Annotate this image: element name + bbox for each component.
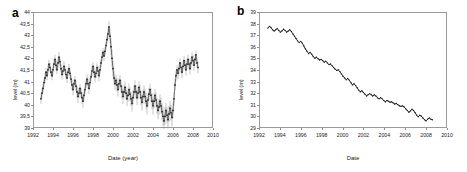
panel-a-y-tick: 41,5 (7, 67, 30, 73)
panel-b-x-tick: 1996 (295, 132, 307, 138)
panel-a-y-tick: 39 (7, 125, 30, 131)
panel-b-x-tick: 2000 (337, 132, 349, 138)
panel-b-y-tick: 32 (233, 90, 256, 96)
panel-a-x-tickmark (213, 128, 214, 130)
panel-a-y-tick: 42,5 (7, 44, 30, 50)
panel-a-x-tickmark (73, 128, 74, 130)
panel-b-y-tickmark (257, 58, 259, 59)
panel-b-y-tickmark (257, 12, 259, 13)
panel-a-y-tickmark (31, 105, 33, 106)
panel-a-x-axis-label: Date (year) (108, 155, 138, 161)
panel-b-x-tickmark (280, 128, 281, 130)
panel-b-y-tickmark (257, 105, 259, 106)
panel-a-y-tick: 40,5 (7, 90, 30, 96)
panel-b-x-tick: 2002 (358, 132, 370, 138)
panel-a-x-tickmark (93, 128, 94, 130)
panel-a-y-tickmark (31, 82, 33, 83)
panel-a-x-tick: 2000 (107, 132, 119, 138)
panel-a-x-tick: 2004 (147, 132, 159, 138)
panel-b-x-tick: 1998 (316, 132, 328, 138)
panel-a-data-series (34, 13, 214, 129)
panel-b-y-tickmark (257, 47, 259, 48)
panel-b-y-tickmark (257, 24, 259, 25)
panel-b-x-tick: 1994 (274, 132, 286, 138)
panel-a-x-tick: 1994 (47, 132, 59, 138)
panel-a-y-tick: 39,5 (7, 113, 30, 119)
panel-b-y-tick: 35 (233, 55, 256, 61)
panel-a-x-tickmark (173, 128, 174, 130)
panel-a-y-tick: 41 (7, 79, 30, 85)
panel-a-x-tick: 2008 (187, 132, 199, 138)
panel-a-x-tickmark (113, 128, 114, 130)
panel-b-x-tickmark (384, 128, 385, 130)
panel-b-x-tick: 2006 (399, 132, 411, 138)
panel-a-x-tickmark (33, 128, 34, 130)
panel-a-y-tick: 43 (7, 32, 30, 38)
panel-b-x-tickmark (259, 128, 260, 130)
panel-a-x-tickmark (193, 128, 194, 130)
panel-a-y-tick: 40 (7, 102, 30, 108)
panel-a-x-tickmark (53, 128, 54, 130)
panel-b-y-tick: 39 (233, 9, 256, 15)
panel-a-y-tickmark (31, 47, 33, 48)
panel-b-x-tickmark (322, 128, 323, 130)
panel-a-y-tickmark (31, 116, 33, 117)
panel-a-y-tick: 43,5 (7, 21, 30, 27)
panel-a-y-tick: 42 (7, 55, 30, 61)
panel-a-x-tick: 1992 (27, 132, 39, 138)
panel-a-y-tick: 44 (7, 9, 30, 15)
panel-b-y-tickmark (257, 82, 259, 83)
panel-a-x-tick: 2010 (207, 132, 219, 138)
panel-b-x-axis-label: Date (347, 155, 360, 161)
panel-a-plot-area (33, 12, 213, 128)
panel-b-data-series (260, 13, 448, 129)
panel-a-x-tick: 1996 (67, 132, 79, 138)
panel-b-x-tickmark (363, 128, 364, 130)
panel-a-y-tickmark (31, 12, 33, 13)
panel-b-x-tick: 2008 (420, 132, 432, 138)
panel-b-y-tickmark (257, 93, 259, 94)
panel-b-y-tickmark (257, 70, 259, 71)
panel-b-x-tickmark (447, 128, 448, 130)
panel-b-y-tick: 29 (233, 125, 256, 131)
panel-a-y-tickmark (31, 35, 33, 36)
panel-b-y-tick: 34 (233, 67, 256, 73)
panel-b-x-tickmark (343, 128, 344, 130)
panel-b-x-tick: 2004 (379, 132, 391, 138)
panel-a-y-tickmark (31, 24, 33, 25)
panel-b-y-tick: 30 (233, 113, 256, 119)
panel-b-x-tickmark (426, 128, 427, 130)
panel-b-y-tick: 38 (233, 21, 256, 27)
panel-b-y-tick: 33 (233, 79, 256, 85)
panel-b-x-tickmark (405, 128, 406, 130)
panel-b-y-tick: 31 (233, 102, 256, 108)
panel-a-x-tick: 1998 (87, 132, 99, 138)
panel-a-x-tick: 2006 (167, 132, 179, 138)
panel-a-x-tickmark (133, 128, 134, 130)
panel-b-plot-area (259, 12, 447, 128)
panel-b-y-tick: 37 (233, 32, 256, 38)
panel-b-x-tickmark (301, 128, 302, 130)
panel-b-y-tickmark (257, 35, 259, 36)
panel-b-x-tick: 1992 (253, 132, 265, 138)
panel-b-x-tick: 2010 (441, 132, 453, 138)
panel-a-x-tick: 2002 (127, 132, 139, 138)
panel-b-y-tickmark (257, 116, 259, 117)
figure-container: a level (m) Date (year) 3939,54040,54141… (0, 0, 467, 172)
panel-a: a level (m) Date (year) 3939,54040,54141… (0, 0, 233, 172)
panel-b-y-tick: 36 (233, 44, 256, 50)
panel-a-y-tickmark (31, 58, 33, 59)
panel-a-y-tickmark (31, 93, 33, 94)
panel-b: b level (m) Date 29303132333435363738391… (233, 0, 467, 172)
panel-a-x-tickmark (153, 128, 154, 130)
panel-a-y-tickmark (31, 70, 33, 71)
